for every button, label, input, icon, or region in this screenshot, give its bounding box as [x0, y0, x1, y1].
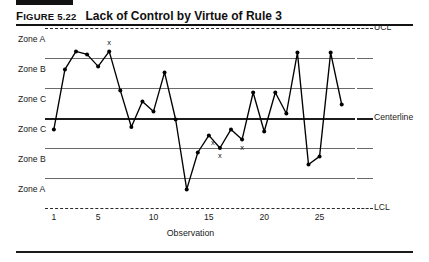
figure-accent-bar: [16, 0, 73, 5]
data-point-16: [218, 146, 222, 150]
zone-label-1: Zone B: [18, 64, 46, 74]
data-point-9: [140, 100, 144, 104]
data-point-2: [63, 67, 67, 71]
figure-label: FIGURE 5.22: [16, 11, 76, 22]
figure-bottom-divider: [16, 251, 413, 253]
zone-label-4: Zone B: [18, 154, 46, 164]
data-point-5: [96, 64, 100, 68]
figure-number: 5.22: [57, 11, 76, 22]
data-point-20: [262, 130, 266, 134]
data-point-12: [174, 118, 178, 122]
data-point-21: [273, 91, 277, 95]
data-point-19: [251, 91, 255, 95]
data-point-25: [318, 154, 322, 158]
zone-label-3: Zone C: [18, 124, 46, 134]
figure-title: FIGURE 5.22Lack of Control by Virtue of …: [16, 6, 416, 21]
rule-violation-marker-0: x: [107, 38, 111, 47]
rule-violation-marker-2: x: [211, 138, 215, 147]
zone-label-2: Zone C: [18, 94, 46, 104]
limit-label-upper: UCL: [374, 22, 391, 32]
data-point-24: [307, 163, 311, 167]
data-point-22: [284, 112, 288, 116]
limit-label-lower: LCL: [374, 202, 390, 212]
data-point-10: [152, 109, 156, 113]
limit-label-center: Centerline: [374, 112, 413, 122]
observation-series: [45, 28, 363, 216]
data-point-7: [118, 88, 122, 92]
data-point-26: [329, 51, 333, 55]
zone-label-5: Zone A: [18, 184, 45, 194]
x-axis-title: Observation: [0, 228, 429, 238]
x-axis-title-text: Observation: [167, 228, 214, 238]
rule-violation-marker-1: x: [218, 151, 222, 160]
series-polyline: [54, 51, 342, 189]
data-point-15: [207, 133, 211, 137]
data-point-27: [340, 103, 344, 107]
zone-label-0: Zone A: [18, 34, 45, 44]
data-point-4: [85, 52, 89, 56]
data-point-23: [295, 51, 299, 55]
data-point-3: [74, 49, 78, 53]
data-point-8: [129, 125, 133, 129]
figure-label-rest: IGURE: [23, 11, 54, 22]
title-divider: [16, 24, 413, 26]
figure-caption: Lack of Control by Virtue of Rule 3: [76, 9, 281, 23]
data-point-6: [107, 49, 111, 53]
data-point-18: [240, 138, 244, 142]
rule-violation-marker-3: x: [240, 143, 244, 152]
data-point-17: [229, 127, 233, 131]
data-point-14: [196, 151, 200, 155]
data-point-1: [52, 127, 56, 131]
data-point-13: [185, 187, 189, 191]
data-point-11: [163, 70, 167, 74]
